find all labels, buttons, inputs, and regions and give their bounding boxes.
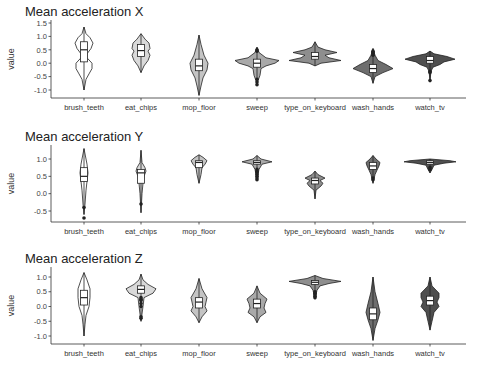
- box: [312, 52, 319, 59]
- outlier-point: [139, 202, 143, 206]
- x-tick-label: brush_teeth: [64, 227, 104, 236]
- outlier-point: [82, 216, 86, 220]
- violin-type_on_keyboard: [289, 276, 341, 300]
- y-tick-label: 1.0: [37, 32, 47, 41]
- outlier-point: [255, 48, 259, 52]
- x-tick-label: brush_teeth: [64, 103, 104, 112]
- box: [196, 161, 203, 168]
- x-tick-label: type_on_keyboard: [284, 227, 346, 236]
- violin-sweep: [247, 286, 267, 323]
- outlier-point: [255, 168, 259, 172]
- x-tick-label: type_on_keyboard: [284, 103, 346, 112]
- violin-chart-figure: Mean acceleration Xvalue1.51.00.50.0-0.5…: [0, 0, 478, 374]
- violin-brush_teeth: [78, 273, 90, 336]
- violin-wash_hands: [353, 48, 393, 83]
- x-tick-label: watch_tv: [414, 349, 445, 358]
- y-tick-label: 1.5: [37, 19, 47, 28]
- outlier-point: [371, 49, 375, 53]
- box: [138, 169, 145, 183]
- y-tick-label: -0.5: [34, 72, 47, 81]
- outlier-point: [371, 176, 375, 180]
- x-tick-label: watch_tv: [414, 227, 445, 236]
- box: [196, 298, 203, 308]
- outlier-point: [82, 206, 86, 210]
- y-tick-label: 0.0: [37, 59, 47, 68]
- violin-watch_tv: [421, 277, 439, 330]
- violin-brush_teeth: [80, 149, 88, 220]
- box: [81, 168, 88, 182]
- violin-watch_tv: [404, 159, 456, 173]
- y-tick-label: -1.0: [34, 86, 47, 95]
- panel-1: Mean acceleration Xvalue1.51.00.50.0-0.5…: [6, 4, 466, 112]
- violin-eat_chips: [132, 34, 150, 73]
- x-tick-label: eat_chips: [125, 103, 157, 112]
- violin-mop_floor: [191, 155, 207, 184]
- y-tick-label: 0.5: [37, 46, 47, 55]
- x-tick-label: eat_chips: [125, 349, 157, 358]
- x-tick-label: watch_tv: [414, 103, 445, 112]
- panel-title: Mean acceleration Z: [25, 251, 143, 266]
- x-tick-label: mop_floor: [182, 103, 216, 112]
- violin-sweep: [242, 156, 272, 182]
- box: [81, 42, 88, 62]
- outlier-point: [313, 290, 317, 294]
- y-tick-label: 1.0: [37, 155, 47, 164]
- y-tick-label: 0.5: [37, 287, 47, 296]
- outlier-point: [428, 166, 432, 170]
- y-tick-label: 0.0: [37, 189, 47, 198]
- panel-3: Mean acceleration Zvalue1.00.50.0-0.5-1.…: [6, 251, 466, 358]
- y-axis-label: value: [6, 295, 16, 317]
- x-tick-label: sweep: [246, 227, 268, 236]
- x-tick-label: mop_floor: [182, 227, 216, 236]
- y-axis-label: value: [6, 48, 16, 70]
- violin-type_on_keyboard: [305, 171, 325, 199]
- outlier-point: [428, 79, 432, 83]
- x-tick-label: brush_teeth: [64, 349, 104, 358]
- violin-wash_hands: [366, 156, 380, 184]
- x-tick-label: eat_chips: [125, 227, 157, 236]
- violin-mop_floor: [191, 278, 207, 322]
- violin-mop_floor: [190, 35, 208, 95]
- violin-eat_chips: [126, 274, 156, 321]
- x-tick-label: sweep: [246, 349, 268, 358]
- y-tick-label: 0.0: [37, 302, 47, 311]
- outlier-point: [139, 317, 143, 321]
- violin-wash_hands: [366, 277, 380, 340]
- outlier-point: [428, 71, 432, 75]
- outlier-point: [139, 296, 143, 300]
- panel-2: Mean acceleration Yvalue1.00.50.0-0.5bru…: [6, 129, 466, 236]
- x-tick-label: wash_hands: [351, 349, 394, 358]
- violin-watch_tv: [405, 51, 455, 82]
- x-tick-label: wash_hands: [351, 227, 394, 236]
- x-tick-label: sweep: [246, 103, 268, 112]
- y-tick-label: 1.0: [37, 273, 47, 282]
- y-tick-label: -1.0: [34, 332, 47, 341]
- x-tick-label: wash_hands: [351, 103, 394, 112]
- outlier-point: [255, 83, 259, 87]
- violin-sweep: [235, 47, 279, 86]
- box: [196, 59, 203, 71]
- panel-title: Mean acceleration Y: [25, 129, 144, 144]
- violin-eat_chips: [136, 150, 146, 212]
- y-tick-label: 0.5: [37, 172, 47, 181]
- violin-type_on_keyboard: [289, 42, 341, 66]
- y-tick-label: -0.5: [34, 207, 47, 216]
- panel-title: Mean acceleration X: [25, 4, 144, 19]
- violin-brush_teeth: [75, 27, 93, 90]
- x-tick-label: type_on_keyboard: [284, 349, 346, 358]
- y-tick-label: -0.5: [34, 317, 47, 326]
- y-axis-label: value: [6, 173, 16, 195]
- x-tick-label: mop_floor: [182, 349, 216, 358]
- box: [427, 57, 434, 64]
